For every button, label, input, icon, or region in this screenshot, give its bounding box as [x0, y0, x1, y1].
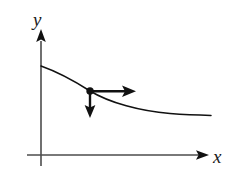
y-axis-arrowhead [36, 29, 46, 42]
math-diagram-figure: y x [0, 0, 229, 179]
diagram-canvas: y x [0, 0, 229, 179]
x-axis-label: x [212, 146, 222, 167]
y-axis-label: y [31, 9, 42, 30]
marked-point [86, 87, 93, 94]
